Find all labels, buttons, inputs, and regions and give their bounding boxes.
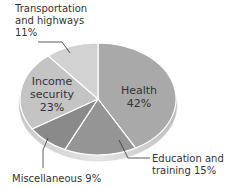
health-name: Health [118, 84, 160, 97]
misc-text: Miscellaneous 9% [12, 173, 101, 184]
health-pct: 42% [118, 97, 160, 110]
education-line1: Education and [152, 153, 224, 165]
education-line2: training 15% [152, 165, 224, 177]
transport-pct: 11% [15, 27, 87, 39]
label-miscellaneous: Miscellaneous 9% [12, 173, 101, 185]
label-education: Education and training 15% [152, 153, 224, 177]
income-pct: 23% [27, 101, 77, 114]
label-health: Health 42% [118, 84, 160, 110]
transport-line2: and highways [15, 15, 87, 27]
income-line1: Income [27, 75, 77, 88]
income-line2: security [27, 88, 77, 101]
label-income-security: Income security 23% [27, 75, 77, 114]
label-transportation: Transportation and highways 11% [15, 3, 87, 39]
transport-line1: Transportation [15, 3, 87, 15]
